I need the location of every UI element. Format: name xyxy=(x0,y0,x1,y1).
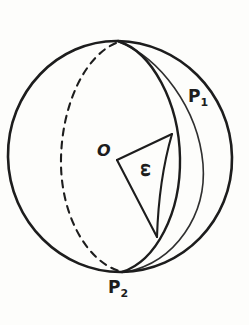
pole-p2-base: P xyxy=(108,277,120,297)
figure-canvas xyxy=(0,0,249,325)
pole-p2-subscript: 2 xyxy=(120,287,128,300)
front-meridian-arc xyxy=(118,41,180,272)
pole-p2-label: P2 xyxy=(108,279,128,296)
pole-p1-base: P xyxy=(188,86,200,106)
sphere-outline xyxy=(8,41,232,272)
sphere-lune-figure: O P1 P2 ω xyxy=(0,0,249,325)
angle-omega-label: ω xyxy=(138,163,154,177)
origin-label: O xyxy=(97,143,111,159)
pole-p1-label: P1 xyxy=(188,88,208,105)
pole-p1-subscript: 1 xyxy=(200,96,208,109)
sector-upper-radius xyxy=(117,134,172,160)
